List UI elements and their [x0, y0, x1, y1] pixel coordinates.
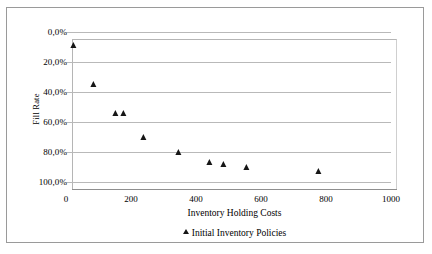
x-axis-title: Inventory Holding Costs: [72, 208, 397, 218]
y-tick-label: 80,0%: [11, 148, 67, 157]
y-tick-label: 20,0%: [11, 58, 67, 67]
x-axis-tick-labels: 02004006008001000: [7, 195, 432, 207]
data-point: [112, 110, 118, 116]
data-point: [206, 159, 212, 165]
x-axis-line: [72, 189, 397, 190]
x-tick-label: 800: [306, 195, 346, 204]
gridline: [66, 92, 391, 93]
legend-triangle-icon: [183, 229, 189, 234]
gridline: [66, 62, 391, 63]
data-point: [140, 134, 146, 140]
data-point: [120, 110, 126, 116]
legend-label: Initial Inventory Policies: [192, 228, 286, 238]
data-point: [315, 168, 321, 174]
gridline: [66, 182, 391, 183]
x-tick-label: 600: [241, 195, 281, 204]
data-point: [175, 149, 181, 155]
y-tick-label: 100,0%: [11, 178, 67, 187]
data-point: [91, 81, 97, 87]
data-point: [220, 161, 226, 167]
x-tick-label: 1000: [371, 195, 411, 204]
gridline: [66, 122, 391, 123]
chart-legend: Initial Inventory Policies: [72, 227, 397, 238]
x-tick-label: 0: [46, 195, 86, 204]
gridline: [66, 152, 391, 153]
y-axis-title: Fill Rate: [31, 74, 41, 144]
x-tick-label: 400: [176, 195, 216, 204]
chart-frame: 0,0%20,0%40,0%60,0%80,0%100,0% 020040060…: [6, 7, 424, 243]
data-point: [243, 164, 249, 170]
x-tick-label: 200: [111, 195, 151, 204]
y-tick-label: 0,0%: [11, 28, 67, 37]
data-point: [71, 42, 77, 48]
gridline: [66, 32, 391, 33]
